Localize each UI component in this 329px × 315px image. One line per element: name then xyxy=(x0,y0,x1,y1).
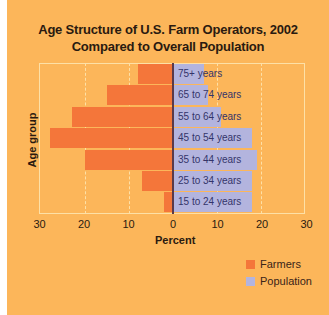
y-axis-label: Age group xyxy=(26,113,38,168)
chart-title: Age Structure of U.S. Farm Operators, 20… xyxy=(7,22,329,37)
x-tick-label: 20 xyxy=(250,218,274,230)
age-group-label: 55 to 64 years xyxy=(178,107,241,127)
bar-farmers xyxy=(50,128,173,148)
gridline xyxy=(261,63,262,214)
bar-farmers xyxy=(107,85,173,105)
zero-axis-line xyxy=(172,63,174,214)
bar-farmers xyxy=(72,107,173,127)
age-group-label: 25 to 34 years xyxy=(178,171,241,191)
x-tick-label: 0 xyxy=(161,218,185,230)
age-group-label: 75+ years xyxy=(178,64,222,84)
bar-farmers xyxy=(138,64,173,84)
x-tick-label: 30 xyxy=(295,218,319,230)
legend-label-population: Population xyxy=(260,274,312,288)
bar-farmers xyxy=(142,171,173,191)
chart-subtitle: Compared to Overall Population xyxy=(7,39,329,54)
x-tick-label: 10 xyxy=(206,218,230,230)
legend-swatch-farmers xyxy=(246,260,255,269)
x-tick-label: 20 xyxy=(72,218,96,230)
age-group-label: 65 to 74 years xyxy=(178,85,241,105)
x-tick-label: 30 xyxy=(28,218,52,230)
x-tick-label: 10 xyxy=(117,218,141,230)
age-group-label: 45 to 54 years xyxy=(178,128,241,148)
x-axis-label: Percent xyxy=(155,234,195,246)
age-group-label: 15 to 24 years xyxy=(178,192,241,212)
bar-farmers xyxy=(85,150,173,170)
legend-swatch-population xyxy=(246,277,255,286)
age-group-label: 35 to 44 years xyxy=(178,150,241,170)
legend-label-farmers: Farmers xyxy=(260,257,301,271)
